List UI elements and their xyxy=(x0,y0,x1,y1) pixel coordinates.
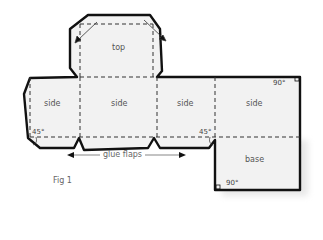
angle-label-top-right: 90° xyxy=(273,79,285,87)
panel-label-side-1: side xyxy=(44,99,60,108)
angle-label-left: 45° xyxy=(32,128,44,136)
angle-label-base: 90° xyxy=(226,179,238,187)
panel-label-side-3: side xyxy=(177,99,193,108)
figure-caption: Fig 1 xyxy=(53,176,72,185)
panel-label-side-4: side xyxy=(246,99,262,108)
panel-label-top: top xyxy=(112,43,125,52)
angle-label-middle: 45° xyxy=(199,128,211,136)
panel-label-base: base xyxy=(245,155,264,164)
glue-flaps-label: glue flaps xyxy=(103,150,142,159)
panel-label-side-2: side xyxy=(111,99,127,108)
